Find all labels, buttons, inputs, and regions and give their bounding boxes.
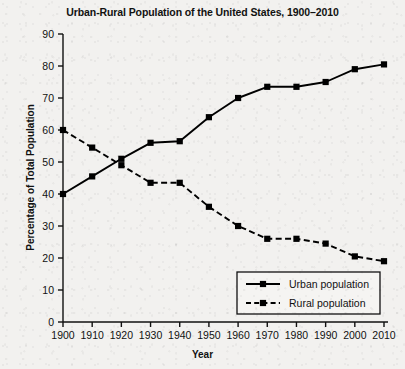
svg-text:1900: 1900 (51, 329, 75, 341)
x-axis-ticks: 1900191019201930194019501960197019801990… (51, 322, 396, 341)
svg-text:20: 20 (42, 252, 54, 264)
svg-text:70: 70 (42, 92, 54, 104)
line-chart-plot: 0102030405060708090 19001910192019301940… (0, 0, 405, 369)
svg-text:1930: 1930 (139, 329, 163, 341)
svg-text:Rural population: Rural population (289, 297, 366, 309)
data-series-layer (60, 61, 387, 264)
svg-text:Urban population: Urban population (289, 278, 369, 290)
y-axis-label: Percentage of Total Population (25, 63, 36, 293)
svg-text:2000: 2000 (343, 329, 367, 341)
svg-text:80: 80 (42, 60, 54, 72)
svg-text:60: 60 (42, 124, 54, 136)
svg-text:1950: 1950 (197, 329, 221, 341)
svg-text:1970: 1970 (256, 329, 280, 341)
svg-text:1910: 1910 (81, 329, 105, 341)
chart-title: Urban-Rural Population of the United Sta… (0, 6, 405, 18)
svg-text:10: 10 (42, 284, 54, 296)
svg-text:90: 90 (42, 28, 54, 40)
y-axis-ticks: 0102030405060708090 (42, 28, 63, 328)
svg-text:1980: 1980 (285, 329, 309, 341)
svg-text:30: 30 (42, 220, 54, 232)
svg-text:1940: 1940 (168, 329, 192, 341)
svg-text:2010: 2010 (372, 329, 396, 341)
svg-text:1990: 1990 (314, 329, 338, 341)
svg-text:1920: 1920 (110, 329, 134, 341)
svg-text:40: 40 (42, 188, 54, 200)
svg-text:1960: 1960 (226, 329, 250, 341)
chart-legend[interactable]: Urban populationRural population (237, 272, 380, 314)
svg-text:50: 50 (42, 156, 54, 168)
x-axis-label: Year (0, 349, 405, 360)
svg-text:0: 0 (48, 316, 54, 328)
